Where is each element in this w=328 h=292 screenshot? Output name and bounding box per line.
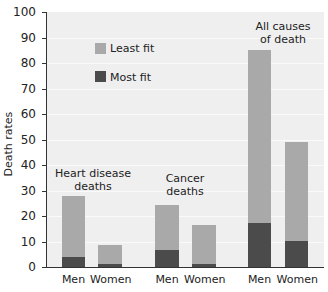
bar-segment-most-fit xyxy=(192,264,216,267)
bar-segment-most-fit xyxy=(285,241,308,267)
gridline xyxy=(47,63,324,64)
x-tick-label: Women xyxy=(184,273,224,286)
y-tick-label: 30 xyxy=(6,185,36,197)
y-tick-label: 90 xyxy=(6,32,36,44)
bar-segment-most-fit xyxy=(62,257,85,267)
bar-segment-most-fit xyxy=(248,223,271,267)
x-tick-label: Women xyxy=(277,273,317,286)
y-axis-label: Death rates xyxy=(2,117,15,177)
y-tick xyxy=(42,165,47,166)
y-tick xyxy=(42,140,47,141)
y-tick xyxy=(42,38,47,39)
y-tick-label: 80 xyxy=(6,57,36,69)
gridline xyxy=(47,242,324,243)
gridline xyxy=(47,89,324,90)
legend-label-most-fit: Most fit xyxy=(110,72,151,84)
y-tick xyxy=(42,12,47,13)
gridline xyxy=(47,114,324,115)
gridline xyxy=(47,140,324,141)
bar-women xyxy=(192,225,216,267)
x-tick-label: Men xyxy=(147,273,187,286)
group-label-heart-disease: Heart disease deaths xyxy=(52,167,134,193)
y-tick xyxy=(42,89,47,90)
bar-segment-most-fit xyxy=(155,250,179,267)
gridline xyxy=(47,165,324,166)
y-tick-label: 10 xyxy=(6,236,36,248)
bar-segment-most-fit xyxy=(98,264,122,267)
x-tick-label: Men xyxy=(54,273,94,286)
bar-men xyxy=(248,50,271,267)
bar-women xyxy=(98,245,122,267)
y-tick xyxy=(42,114,47,115)
bar-women xyxy=(285,142,308,267)
legend-swatch-most-fit xyxy=(95,71,106,82)
group-label-all-causes: All causes of death xyxy=(248,20,318,46)
bar-segment-least-fit xyxy=(192,225,216,267)
y-tick-label: 0 xyxy=(6,261,36,273)
y-tick xyxy=(42,191,47,192)
y-tick xyxy=(42,267,47,268)
bar-men xyxy=(62,196,85,267)
legend-swatch-least-fit xyxy=(95,43,106,54)
y-tick xyxy=(42,63,47,64)
y-tick xyxy=(42,216,47,217)
x-tick-label: Men xyxy=(240,273,280,286)
stacked-bar-chart: 0102030405060708090100 Death rates Heart… xyxy=(0,0,328,292)
bar-men xyxy=(155,205,179,267)
x-axis xyxy=(46,267,324,268)
y-tick-label: 100 xyxy=(6,6,36,18)
y-tick xyxy=(42,242,47,243)
y-tick-label: 70 xyxy=(6,83,36,95)
x-tick-label: Women xyxy=(90,273,130,286)
gridline xyxy=(47,216,324,217)
group-label-cancer: Cancer deaths xyxy=(150,172,220,198)
legend-label-least-fit: Least fit xyxy=(110,43,154,55)
y-tick-label: 20 xyxy=(6,210,36,222)
